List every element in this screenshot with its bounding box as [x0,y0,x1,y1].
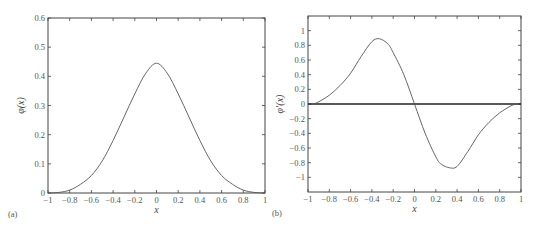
x-tick-label: 0.4 [452,194,463,204]
y-tick-label: 0.3 [34,101,45,111]
x-tick-label: −1 [303,194,312,204]
y-tick-label: 0.4 [294,70,305,80]
x-tick-label: 0.4 [195,195,206,205]
x-tick-label: 0.8 [494,194,505,204]
chart-panel-b: −1−0.8−0.6−0.4−0.200.20.40.60.81−1−0.8−0… [272,16,523,218]
x-tick-label: −0.2 [127,195,142,205]
figure: −1−0.8−0.6−0.4−0.200.20.40.60.8100.10.20… [0,0,541,229]
y-tick-label: 0.6 [294,55,305,65]
x-tick-label: −0.2 [385,194,400,204]
y-tick-label: 0.4 [34,71,45,81]
x-tick-label: −0.6 [343,194,358,204]
y-tick-label: −1 [296,172,305,182]
y-tick-label: 0.5 [34,42,45,52]
x-tick-label: −0.8 [322,194,337,204]
y-tick-label: 0.2 [294,84,305,94]
panel-label: (b) [272,208,282,218]
chart-panel-a: −1−0.8−0.6−0.4−0.200.20.40.60.8100.10.20… [8,13,267,219]
data-curve [48,63,265,193]
x-tick-label: −0.4 [105,195,121,205]
x-tick-label: 1 [263,195,267,205]
x-tick-label: 0.8 [238,195,249,205]
x-tick-label: −0.6 [84,195,99,205]
y-tick-label: 0.2 [34,130,45,140]
y-axis-label: φ(x) [15,97,27,114]
y-tick-label: 0 [41,188,45,198]
x-tick-label: 0.2 [430,194,441,204]
x-tick-label: 1 [519,194,523,204]
y-tick-label: −0.8 [290,158,305,168]
panel-label: (a) [8,209,18,219]
x-tick-label: −0.8 [62,195,77,205]
x-tick-label: −0.4 [364,194,380,204]
y-tick-label: −0.4 [290,128,306,138]
x-axis-label: x [153,204,159,215]
x-tick-label: 0.6 [473,194,484,204]
y-tick-label: 0.1 [34,159,45,169]
y-tick-label: −0.6 [290,143,305,153]
y-tick-label: 0 [301,99,305,109]
y-tick-label: 0.8 [294,40,305,50]
x-tick-label: 0.6 [216,195,227,205]
x-axis-label: x [411,203,417,214]
x-tick-label: 0.2 [173,195,184,205]
y-tick-label: 1 [301,26,305,36]
y-tick-label: −0.2 [290,114,305,124]
plot-frame [48,18,265,193]
y-axis-label: φ′(x) [274,94,286,113]
y-tick-label: 0.6 [34,13,45,23]
